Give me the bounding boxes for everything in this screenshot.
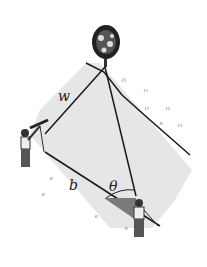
label-w: w xyxy=(58,88,70,104)
field-region xyxy=(30,63,192,228)
surveying-diagram xyxy=(0,0,207,267)
label-theta: θ xyxy=(109,178,117,194)
label-b: b xyxy=(69,177,78,193)
tree-icon xyxy=(92,25,120,67)
